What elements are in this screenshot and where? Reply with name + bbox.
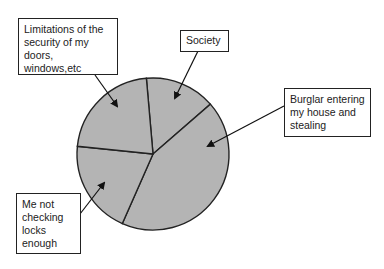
label-burglar: Burglar entering my house and stealing — [284, 88, 371, 137]
label-limitations: Limitations of the security of my doors,… — [18, 18, 118, 75]
pie-slices — [77, 78, 229, 230]
label-society: Society — [180, 30, 229, 52]
label-me-not-checking: Me not checking locks enough — [16, 193, 81, 254]
slice-limitations — [77, 78, 153, 154]
